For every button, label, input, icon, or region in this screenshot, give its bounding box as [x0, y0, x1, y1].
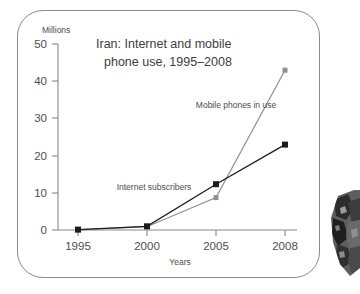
y-tick-label-30: 30: [34, 112, 47, 124]
x-axis-ticks: [78, 230, 285, 236]
x-tick-label-2008: 2008: [272, 240, 298, 252]
x-tick-label-2000: 2000: [134, 240, 160, 252]
y-tick-label-10: 10: [34, 187, 47, 199]
y-tick-label-50: 50: [34, 38, 47, 50]
annotation-internet-subscribers: Internet subscribers: [117, 182, 192, 192]
chart-title-line2: phone use, 1995–2008: [104, 55, 232, 69]
series-markers-mobile-phones: [76, 68, 288, 233]
y-axis-unit-label: Millions: [42, 25, 70, 35]
chart-title-line1: Iran: Internet and mobile: [96, 37, 232, 51]
y-axis-ticks: [52, 44, 58, 230]
annotation-mobile-phones: Mobile phones in use: [196, 100, 277, 110]
x-tick-label-2005: 2005: [203, 240, 229, 252]
chart-plot: 50 40 30 20 10 0 1995 2000 2005 2008 Mil…: [0, 0, 360, 294]
figure-root: 50 40 30 20 10 0 1995 2000 2005 2008 Mil…: [0, 0, 360, 294]
x-axis-name-label: Years: [169, 257, 190, 267]
x-tick-label-1995: 1995: [65, 240, 91, 252]
y-tick-label-40: 40: [34, 75, 47, 87]
y-tick-label-20: 20: [34, 150, 47, 162]
y-tick-label-0: 0: [41, 224, 47, 236]
